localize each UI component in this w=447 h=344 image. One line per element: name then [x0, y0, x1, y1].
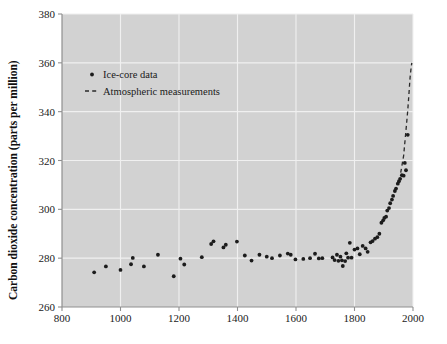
- data-point: [131, 256, 135, 260]
- y-axis-title: Carbon dioxide concentration (parts per …: [7, 60, 20, 300]
- y-tick-label: 280: [39, 252, 56, 264]
- data-point: [289, 253, 293, 257]
- legend-label-atmospheric: Atmospheric measurements: [103, 86, 220, 97]
- data-point: [92, 270, 96, 274]
- data-point: [377, 232, 381, 236]
- x-tick-label: 1600: [285, 312, 308, 324]
- data-point: [317, 257, 321, 261]
- y-tick-label: 320: [39, 155, 56, 167]
- x-tick-label: 1000: [110, 312, 133, 324]
- y-tick-label: 300: [39, 203, 56, 215]
- data-point: [156, 253, 160, 257]
- data-point: [394, 187, 398, 191]
- x-tick-label: 1200: [168, 312, 191, 324]
- data-point: [387, 206, 391, 210]
- x-tick-label: 1800: [344, 312, 367, 324]
- data-point: [179, 257, 183, 261]
- legend-label-ice-core: Ice-core data: [103, 69, 158, 80]
- data-point: [250, 259, 254, 263]
- data-point: [340, 258, 344, 262]
- data-point: [243, 254, 247, 258]
- data-point: [172, 274, 176, 278]
- y-tick-label: 360: [39, 57, 56, 69]
- chart-figure: 260280300320340360380 800100012001400160…: [0, 0, 447, 344]
- data-point: [258, 253, 262, 257]
- data-point: [265, 255, 269, 259]
- data-point: [301, 257, 305, 261]
- data-point: [404, 168, 408, 172]
- data-point: [398, 177, 402, 181]
- data-point: [356, 247, 360, 251]
- data-point: [294, 257, 298, 261]
- data-point: [390, 198, 394, 202]
- data-point: [129, 262, 133, 266]
- data-point: [388, 201, 392, 205]
- data-point: [346, 256, 350, 260]
- data-point: [337, 259, 341, 263]
- data-point: [142, 265, 146, 269]
- data-point: [341, 264, 345, 268]
- co2-concentration-chart: 260280300320340360380 800100012001400160…: [0, 0, 447, 344]
- data-point: [335, 253, 339, 257]
- x-tick-label: 1400: [227, 312, 250, 324]
- data-point: [270, 256, 274, 260]
- legend-dot-icon: [90, 73, 94, 77]
- data-point: [406, 133, 410, 137]
- data-point: [224, 243, 228, 247]
- data-point: [358, 252, 362, 256]
- data-point: [119, 268, 123, 272]
- y-tick-label: 340: [39, 106, 56, 118]
- y-tick-label: 380: [39, 8, 56, 20]
- data-point: [235, 240, 239, 244]
- data-point: [343, 259, 347, 263]
- data-point: [402, 174, 406, 178]
- data-point: [200, 255, 204, 259]
- data-point: [403, 161, 407, 165]
- data-point: [384, 215, 388, 219]
- data-point: [104, 265, 108, 269]
- data-point: [366, 250, 370, 254]
- data-point: [182, 263, 186, 267]
- data-point: [320, 256, 324, 260]
- data-point: [313, 252, 317, 256]
- data-point: [364, 247, 368, 251]
- data-point: [375, 235, 379, 239]
- data-point: [348, 241, 352, 245]
- data-point: [308, 256, 312, 260]
- x-tick-label: 2000: [402, 312, 425, 324]
- x-tick-label: 800: [54, 312, 71, 324]
- data-point: [350, 256, 354, 260]
- data-point: [278, 254, 282, 258]
- data-point: [212, 239, 216, 243]
- data-point: [339, 255, 343, 259]
- data-point: [344, 251, 348, 255]
- data-point: [391, 194, 395, 198]
- data-point: [361, 244, 365, 248]
- data-point: [333, 258, 337, 262]
